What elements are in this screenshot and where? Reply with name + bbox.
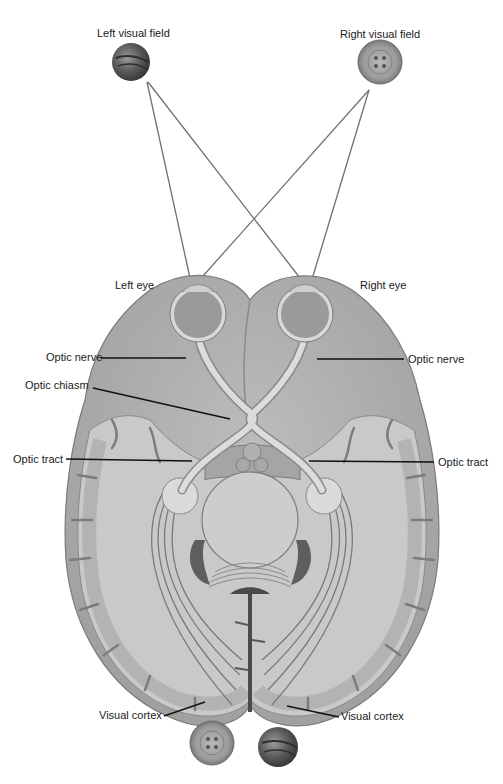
cortex-ball-icon xyxy=(258,727,298,767)
diagram-artwork xyxy=(0,0,503,784)
label-optic-nerve-right: Optic nerve xyxy=(408,353,464,366)
label-right-visual-field: Right visual field xyxy=(340,28,420,41)
label-visual-cortex-left: Visual cortex xyxy=(99,709,162,722)
cortex-button-icon xyxy=(190,721,234,765)
label-optic-nerve-left: Optic nerve xyxy=(46,351,102,364)
label-optic-tract-right: Optic tract xyxy=(438,456,488,469)
visual-pathway-diagram: Left visual field Right visual field Lef… xyxy=(0,0,503,784)
light-rays xyxy=(147,82,369,278)
label-visual-cortex-right: Visual cortex xyxy=(341,710,404,723)
label-left-visual-field: Left visual field xyxy=(97,27,170,40)
label-right-eye: Right eye xyxy=(360,279,406,292)
label-optic-chiasm: Optic chiasm xyxy=(25,379,89,392)
label-optic-tract-left: Optic tract xyxy=(13,453,63,466)
label-left-eye: Left eye xyxy=(115,279,154,292)
ball-icon xyxy=(112,43,150,81)
button-icon xyxy=(358,40,402,84)
